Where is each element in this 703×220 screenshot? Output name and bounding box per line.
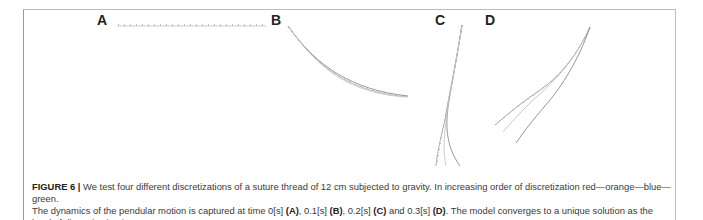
caption-figure-label: FIGURE 6 | — [32, 181, 80, 192]
caption-ref-d: (D) — [433, 205, 446, 216]
panel-b-threads — [288, 26, 408, 97]
caption-ref-b: (B) — [330, 205, 343, 216]
caption-line-2-prefix: The dynamics of the pendular motion is c… — [32, 205, 286, 216]
panel-c-threads — [436, 25, 462, 166]
caption-sep: and 0.3[s] — [386, 205, 432, 216]
panel-a-thread — [118, 22, 266, 26]
panel-d-threads — [495, 27, 590, 143]
thread-simulation-plot — [0, 0, 703, 180]
caption-ref-a: (A) — [286, 205, 299, 216]
figure-caption: FIGURE 6 | We test four different discre… — [32, 181, 672, 220]
caption-sep: , 0.1[s] — [299, 205, 330, 216]
caption-sep: , 0.2[s] — [343, 205, 374, 216]
caption-ref-c: (C) — [373, 205, 386, 216]
caption-line-1: We test four different discretizations o… — [32, 181, 671, 204]
